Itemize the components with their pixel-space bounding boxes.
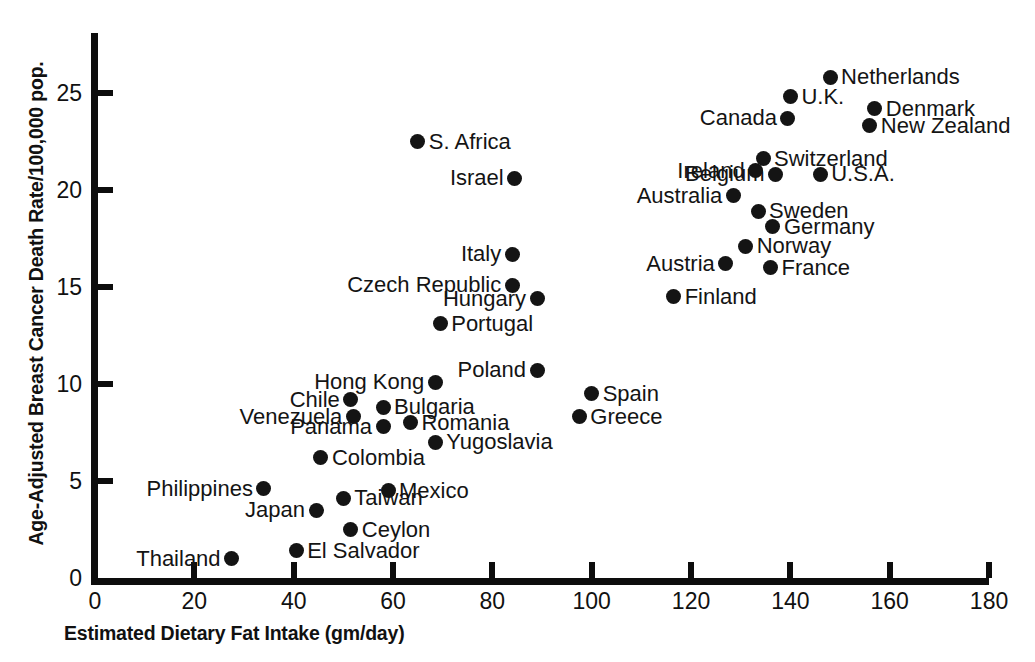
point-label: Greece <box>590 406 662 428</box>
data-point <box>862 118 877 133</box>
point-label: Poland <box>458 359 527 381</box>
point-label: Hungary <box>443 288 526 310</box>
point-label: New Zealand <box>881 115 1011 137</box>
plot-area: NetherlandsU.K.DenmarkCanadaNew ZealandS… <box>0 0 1035 662</box>
point-label: Japan <box>245 499 305 521</box>
data-point <box>813 167 828 182</box>
point-label: Thailand <box>136 548 220 570</box>
point-label: France <box>782 257 850 279</box>
data-point <box>823 70 838 85</box>
data-point <box>780 111 795 126</box>
data-point <box>572 409 587 424</box>
point-label: Austria <box>646 253 714 275</box>
point-label: Norway <box>757 235 832 257</box>
point-label: Spain <box>603 383 659 405</box>
point-label: U.K. <box>801 86 844 108</box>
point-label: Netherlands <box>841 66 960 88</box>
point-label: Australia <box>637 185 723 207</box>
point-label: Colombia <box>332 447 425 469</box>
data-point <box>584 386 599 401</box>
point-label: Taiwan <box>354 487 422 509</box>
data-point <box>256 481 271 496</box>
data-point <box>726 188 741 203</box>
data-point <box>530 291 545 306</box>
point-label: Portugal <box>451 313 533 335</box>
data-point <box>309 503 324 518</box>
point-label: Panama <box>290 416 372 438</box>
data-point <box>376 400 391 415</box>
data-point <box>783 89 798 104</box>
data-point <box>289 543 304 558</box>
data-point <box>410 134 425 149</box>
point-label: Italy <box>461 243 501 265</box>
data-point <box>765 219 780 234</box>
data-point <box>768 167 783 182</box>
data-point <box>428 375 443 390</box>
data-point <box>751 204 766 219</box>
point-label: S. Africa <box>429 131 511 153</box>
data-point <box>336 491 351 506</box>
data-point <box>763 260 778 275</box>
data-point <box>403 415 418 430</box>
data-point <box>428 435 443 450</box>
point-label: El Salvador <box>307 540 420 562</box>
data-point <box>507 171 522 186</box>
data-point <box>718 256 733 271</box>
data-point <box>666 289 681 304</box>
point-label: Finland <box>685 286 757 308</box>
data-point <box>224 551 239 566</box>
point-label: Philippines <box>146 478 252 500</box>
point-label: U.S.A. <box>831 163 895 185</box>
point-label: Israel <box>450 167 504 189</box>
scatter-chart: Age-Adjusted Breast Cancer Death Rate/10… <box>0 0 1035 662</box>
data-point <box>738 239 753 254</box>
data-point <box>376 419 391 434</box>
data-point <box>313 450 328 465</box>
data-point <box>343 392 358 407</box>
point-label: Canada <box>700 107 777 129</box>
data-point <box>505 247 520 262</box>
data-point <box>343 522 358 537</box>
point-label: Yugoslavia <box>446 431 552 453</box>
data-point <box>530 363 545 378</box>
data-point <box>433 316 448 331</box>
